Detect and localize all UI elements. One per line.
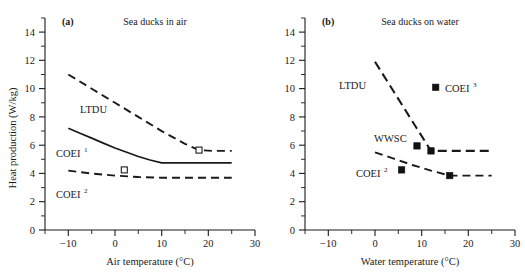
y-tick-8: 8: [30, 112, 35, 123]
panel-b-label-coei2-base: COEI: [356, 168, 381, 179]
panel-b-x-major-ticks: [328, 230, 515, 236]
panel-b-label-coei3-base: COEI: [445, 83, 470, 94]
panel-a-letter: (a): [62, 16, 74, 28]
panel-b-label-ltdu: LTDU: [339, 80, 366, 91]
y-tick-4: 4: [30, 168, 36, 179]
x-tick-0: 0: [112, 238, 117, 249]
x-tick-neg10: −10: [60, 238, 76, 249]
panel-b-y-tick-14: 14: [285, 27, 296, 38]
panel-b-x-axis-title: Water temperature (°C): [361, 256, 460, 268]
x-tick-30: 30: [250, 238, 261, 249]
panel-a-title: Sea ducks in air: [123, 16, 187, 27]
figure-container: Heat production (W/kg): [0, 0, 525, 280]
panel-a-marker-ltdu-observation: [196, 147, 202, 153]
panel-a-label-coei2-sup: 2: [84, 187, 88, 195]
panel-b-y-tick-0: 0: [290, 225, 295, 236]
panel-b-marker-wwsc-2: [428, 148, 434, 154]
panel-b-marker-coei3: [433, 84, 439, 90]
panel-b-y-tick-10: 10: [285, 83, 296, 94]
y-axis-title: Heat production (W/kg): [7, 87, 19, 188]
panel-a-label-ltdu: LTDU: [80, 104, 107, 115]
panel-a-label-coei2: COEI 2: [56, 187, 88, 200]
panel-a-x-axis-title: Air temperature (°C): [106, 256, 194, 268]
panel-b-series-coei2: [375, 152, 492, 175]
panel-a-marker-coei2-observation: [121, 167, 127, 173]
panel-b-label-coei3-sup: 3: [473, 81, 477, 89]
panel-b-y-tick-8: 8: [290, 112, 295, 123]
panel-b-x-tick-20: 20: [463, 238, 474, 249]
y-tick-2: 2: [30, 196, 35, 207]
x-tick-20: 20: [203, 238, 214, 249]
panel-b-label-coei3: COEI 3: [445, 81, 477, 94]
panel-b-marker-wwsc-1: [414, 143, 420, 149]
y-tick-14: 14: [25, 27, 36, 38]
panel-b-y-tick-6: 6: [290, 140, 295, 151]
panel-a-y-tick-labels: 0 2 4 6 8 10 12 14: [25, 27, 36, 236]
panel-a-label-coei2-base: COEI: [56, 189, 81, 200]
sea-ducks-heat-production-figure: Heat production (W/kg): [0, 0, 525, 280]
panel-a: 0 2 4 6 8 10 12 14: [25, 16, 261, 268]
panel-a-series-coei1: [68, 128, 231, 163]
panel-b-x-tick-10: 10: [416, 238, 427, 249]
panel-b-marker-coei2-2: [447, 172, 453, 178]
panel-a-label-coei1-sup: 1: [84, 146, 88, 154]
panel-a-x-minor-ticks: [45, 230, 232, 234]
x-tick-10: 10: [156, 238, 167, 249]
panel-a-x-tick-labels: −10 0 10 20 30: [60, 238, 260, 249]
panel-b-y-tick-12: 12: [285, 55, 296, 66]
panel-b-label-wwsc: WWSC: [374, 133, 407, 144]
panel-b-x-tick-0: 0: [372, 238, 377, 249]
y-tick-10: 10: [25, 83, 36, 94]
panel-b-x-tick-neg10: −10: [320, 238, 336, 249]
y-tick-6: 6: [30, 140, 35, 151]
panel-a-x-major-ticks: [68, 230, 255, 236]
panel-b: 0 2 4 6 8 10 12 14: [285, 16, 521, 268]
panel-b-y-tick-labels: 0 2 4 6 8 10 12 14: [285, 27, 296, 236]
panel-b-x-minor-ticks: [305, 230, 492, 234]
panel-b-title: Sea ducks on water: [381, 16, 459, 27]
panel-b-x-tick-labels: −10 0 10 20 30: [320, 238, 520, 249]
panel-a-label-coei1: COEI 1: [56, 146, 88, 159]
panel-b-label-coei2-sup: 2: [384, 166, 388, 174]
y-tick-12: 12: [25, 55, 36, 66]
panel-b-marker-coei2-1: [398, 167, 404, 173]
panel-b-label-coei2: COEI 2: [356, 166, 388, 179]
panel-b-x-tick-30: 30: [510, 238, 521, 249]
y-tick-0: 0: [30, 225, 35, 236]
panel-b-letter: (b): [322, 16, 334, 28]
panel-a-series-coei2: [68, 171, 231, 178]
panel-b-y-tick-2: 2: [290, 196, 295, 207]
panel-b-y-tick-4: 4: [290, 168, 296, 179]
panel-a-label-coei1-base: COEI: [56, 148, 81, 159]
